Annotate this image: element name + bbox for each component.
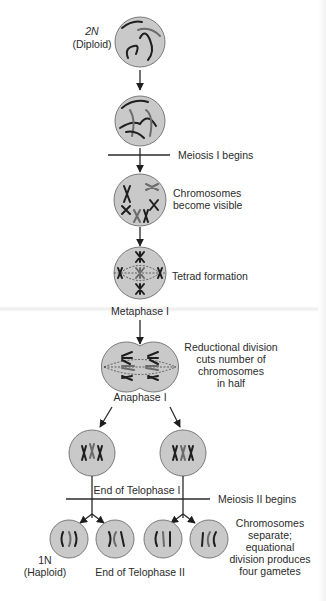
metaphase-1-label: Metaphase I xyxy=(111,305,169,317)
reductional-line2: cuts number of xyxy=(196,353,266,365)
reductional-line4: in half xyxy=(217,377,245,389)
gamete-cell-3 xyxy=(144,520,182,558)
metaphase-1-cell xyxy=(114,247,166,299)
reductional-line1: Reductional division xyxy=(184,341,278,353)
arrow-icon xyxy=(100,407,112,427)
anaphase-1-label: Anaphase I xyxy=(113,391,166,403)
replicated-chromatin-cell xyxy=(115,96,165,146)
ploidy-1n-label: 1N xyxy=(38,554,51,566)
gamete-cell-2 xyxy=(96,520,134,558)
reductional-line3: chromosomes xyxy=(198,365,264,377)
diploid-cell xyxy=(115,17,165,67)
end-telophase-2-label: End of Telophase II xyxy=(95,566,185,578)
arrow-icon xyxy=(92,514,104,523)
arrow-icon xyxy=(183,514,195,523)
equational-line5: four gametes xyxy=(239,565,300,577)
diploid-label: (Diploid) xyxy=(72,38,111,50)
equational-line4: division produces xyxy=(229,553,310,565)
chromosomes-visible-line2: become visible xyxy=(173,199,243,211)
chromosomes-visible-cell xyxy=(114,174,166,226)
meiosis-1-begins-label: Meiosis I begins xyxy=(178,149,253,161)
telophase-1-cell-right xyxy=(160,430,206,476)
arrow-icon xyxy=(171,514,183,523)
arrow-icon xyxy=(170,407,180,427)
meiosis-2-begins-label: Meiosis II begins xyxy=(218,493,296,505)
telophase-1-cell-left xyxy=(69,430,115,476)
equational-line1: Chromosomes xyxy=(236,517,304,529)
end-telophase-1-label: End of Telophase I xyxy=(94,484,181,496)
haploid-label: (Haploid) xyxy=(24,566,67,578)
equational-line2: separate; xyxy=(248,529,292,541)
meiosis-diagram: 2N (Diploid) Meiosis I begins Chromosome… xyxy=(0,0,326,601)
chromosomes-visible-line1: Chromosomes xyxy=(173,187,241,199)
gamete-cell-4 xyxy=(190,520,228,558)
gamete-cell-1 xyxy=(50,520,88,558)
equational-line3: equational xyxy=(246,541,294,553)
arrow-icon xyxy=(80,514,92,523)
tetrad-formation-label: Tetrad formation xyxy=(172,270,248,282)
ploidy-2n-label: 2N xyxy=(84,25,99,37)
anaphase-1-cell xyxy=(101,342,178,392)
